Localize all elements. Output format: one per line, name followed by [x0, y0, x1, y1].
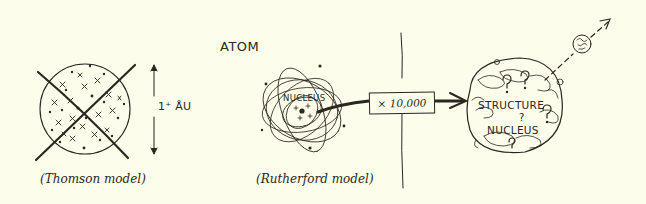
magnify-arrow [433, 93, 466, 108]
zoom-pointer-line [318, 101, 369, 112]
emission-dashed-arrow [545, 19, 610, 80]
thomson-size-label: 1⁺ ÅU [158, 100, 191, 113]
magnification-box: × 10,000 [369, 91, 435, 114]
thomson-sphere [40, 64, 130, 154]
magnification-label: × 10,000 [377, 97, 426, 110]
emitted-particle [573, 35, 591, 53]
rutherford-nucleus-label: NUCLEUS [283, 93, 325, 103]
thomson-caption: (Thomson model) [40, 172, 146, 186]
size-double-arrow [151, 65, 157, 154]
diagram-title: ATOM [220, 39, 259, 54]
atom-models-diagram: ATOM 1⁺ ÅU (Thomson model) NUCLEUS (Ruth… [0, 0, 646, 204]
structure-nucleus-label: NUCLEUS [487, 124, 539, 136]
structure-question-mark: ? [519, 112, 525, 123]
structure-label: STRUCTURE [478, 99, 544, 111]
rutherford-caption: (Rutherford model) [256, 172, 374, 186]
